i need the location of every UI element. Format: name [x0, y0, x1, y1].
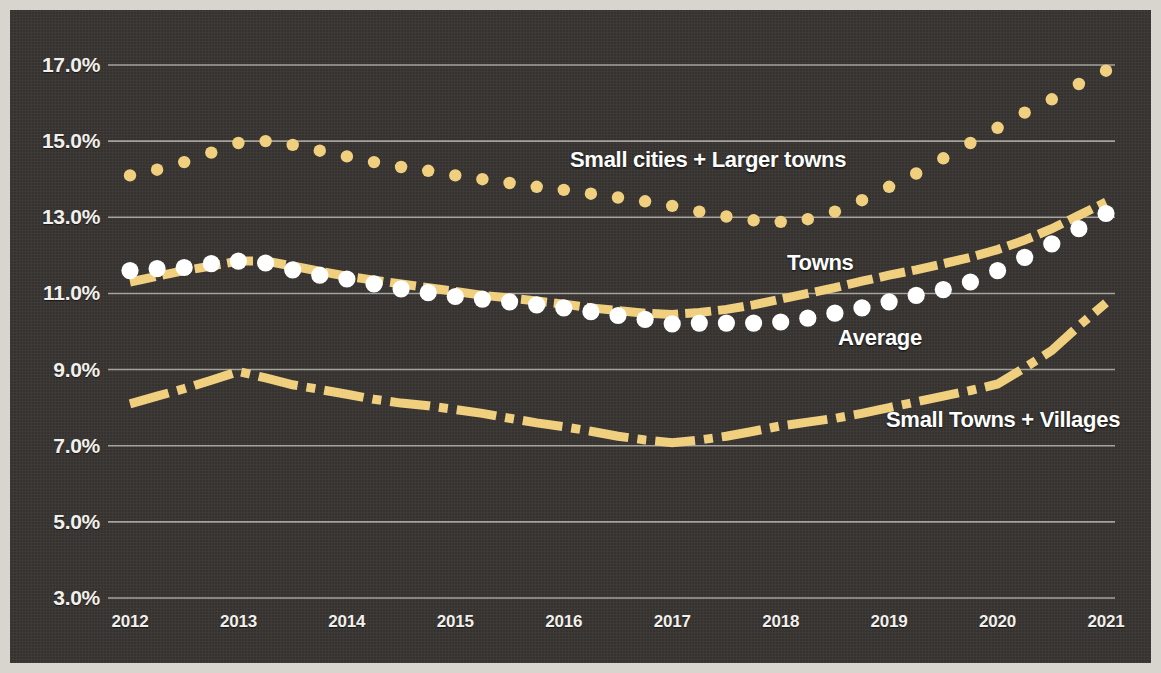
data-point [393, 280, 410, 297]
data-point [121, 262, 138, 279]
chart-gridlines [108, 65, 1115, 598]
data-point [149, 260, 166, 277]
y-axis-tick-label: 9.0% [8, 358, 100, 382]
data-point [664, 315, 681, 332]
data-point [585, 188, 597, 200]
y-axis-tick-label: 11.0% [8, 281, 100, 305]
series-label-small-towns-villages: Small Towns + Villages [886, 407, 1120, 433]
data-point [205, 146, 217, 158]
data-point [474, 291, 491, 308]
data-point [1043, 235, 1060, 252]
y-axis-tick-label: 13.0% [8, 205, 100, 229]
x-axis-tick-label: 2017 [654, 612, 691, 632]
series-line [130, 202, 1106, 314]
data-point [368, 156, 380, 168]
data-point [829, 205, 841, 217]
x-axis-tick-label: 2015 [437, 612, 474, 632]
data-point [476, 173, 488, 185]
data-point [772, 313, 789, 330]
x-axis-tick-label: 2013 [220, 612, 257, 632]
data-point [1018, 106, 1030, 118]
data-point [203, 255, 220, 272]
data-point [881, 293, 898, 310]
data-point [637, 311, 654, 328]
data-point [284, 261, 301, 278]
data-point [666, 200, 678, 212]
data-point [1016, 249, 1033, 266]
data-point [178, 156, 190, 168]
x-axis-tick-label: 2019 [871, 612, 908, 632]
data-point [883, 181, 895, 193]
data-point [287, 139, 299, 151]
data-point [691, 315, 708, 332]
data-point [718, 315, 735, 332]
data-point [964, 137, 976, 149]
data-point [826, 305, 843, 322]
data-point [311, 267, 328, 284]
data-point [747, 214, 759, 226]
data-point [314, 145, 326, 157]
data-point [1100, 65, 1112, 77]
series-label-small-cities-larger-towns: Small cities + Larger towns [570, 147, 846, 173]
data-point [420, 284, 437, 301]
data-point [908, 287, 925, 304]
data-point [720, 210, 732, 222]
data-point [910, 167, 922, 179]
x-axis-tick-label: 2012 [111, 612, 148, 632]
data-point [1046, 93, 1058, 105]
data-point [176, 259, 193, 276]
x-axis-tick-label: 2021 [1087, 612, 1124, 632]
data-point [558, 184, 570, 196]
data-point [799, 310, 816, 327]
data-point [528, 296, 545, 313]
x-axis-tick-label: 2014 [328, 612, 365, 632]
data-point [745, 315, 762, 332]
data-point [962, 273, 979, 290]
x-axis-tick-label: 2020 [979, 612, 1016, 632]
data-point [447, 288, 464, 305]
data-point [501, 293, 518, 310]
data-point [802, 213, 814, 225]
data-point [693, 205, 705, 217]
x-axis-tick-label: 2016 [545, 612, 582, 632]
data-point [853, 299, 870, 316]
data-point [639, 195, 651, 207]
data-point [1073, 78, 1085, 90]
data-point [338, 270, 355, 287]
data-point [989, 262, 1006, 279]
data-point [609, 307, 626, 324]
y-axis-tick-label: 5.0% [8, 510, 100, 534]
chart-series-layer [121, 65, 1114, 443]
series-label-average: Average [838, 325, 922, 351]
data-point [531, 181, 543, 193]
series-average [121, 205, 1114, 333]
x-axis-tick-label: 2018 [762, 612, 799, 632]
data-point [937, 152, 949, 164]
data-point [230, 253, 247, 270]
data-point [1097, 205, 1114, 222]
data-point [341, 150, 353, 162]
data-point [257, 254, 274, 271]
data-point [612, 191, 624, 203]
data-point [232, 137, 244, 149]
y-axis-tick-label: 17.0% [8, 53, 100, 77]
data-point [1070, 220, 1087, 237]
data-point [365, 275, 382, 292]
data-point [991, 122, 1003, 134]
data-point [582, 303, 599, 320]
data-point [124, 169, 136, 181]
y-axis-tick-label: 3.0% [8, 586, 100, 610]
y-axis-tick-label: 7.0% [8, 434, 100, 458]
chart-canvas [0, 0, 1161, 673]
data-point [449, 169, 461, 181]
data-point [395, 161, 407, 173]
data-point [935, 281, 952, 298]
data-point [775, 216, 787, 228]
data-point [422, 165, 434, 177]
data-point [151, 164, 163, 176]
data-point [555, 299, 572, 316]
y-axis-tick-label: 15.0% [8, 129, 100, 153]
data-point [259, 135, 271, 147]
data-point [856, 194, 868, 206]
series-towns [130, 202, 1106, 314]
